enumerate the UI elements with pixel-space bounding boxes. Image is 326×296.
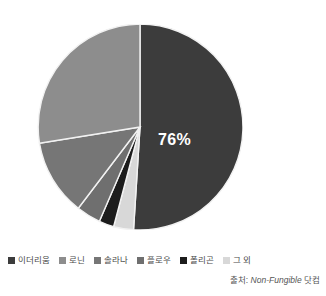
legend-label: 폴리곤	[190, 255, 214, 265]
legend-item-ronin[interactable]: 로닌	[59, 255, 85, 265]
pie-slice-ronin[interactable]	[38, 24, 140, 143]
source-prefix: 출처:	[230, 275, 248, 285]
source-suffix: 닷컴	[304, 275, 320, 285]
legend-swatch-icon	[8, 257, 15, 264]
pie-slice-ethereum[interactable]	[134, 24, 243, 230]
legend-item-others[interactable]: 그 외	[223, 255, 251, 265]
legend-swatch-icon	[137, 257, 144, 264]
source-attribution: 출처: Non-Fungible 닷컴	[230, 273, 320, 285]
legend-label: 솔라나	[104, 255, 128, 265]
legend-label: 이더리움	[18, 255, 50, 265]
legend-label: 그 외	[233, 255, 251, 265]
legend-item-solana[interactable]: 솔라나	[94, 255, 128, 265]
legend-item-flow[interactable]: 플로우	[137, 255, 171, 265]
chart-legend: 이더리움 로닌 솔라나 플로우 폴리곤 그 외	[0, 250, 326, 270]
pie-percentage-label: 76%	[158, 131, 191, 149]
legend-swatch-icon	[59, 257, 66, 264]
legend-label: 로닌	[69, 255, 85, 265]
legend-swatch-icon	[180, 257, 187, 264]
pie-chart-svg	[37, 24, 243, 230]
legend-swatch-icon	[94, 257, 101, 264]
legend-item-ethereum[interactable]: 이더리움	[8, 255, 50, 265]
legend-item-polygon[interactable]: 폴리곤	[180, 255, 214, 265]
pie-chart	[37, 24, 243, 230]
legend-swatch-icon	[223, 257, 230, 264]
pie-chart-area: 76%	[0, 0, 326, 248]
legend-label: 플로우	[147, 255, 171, 265]
source-name: Non-Fungible	[251, 275, 302, 285]
